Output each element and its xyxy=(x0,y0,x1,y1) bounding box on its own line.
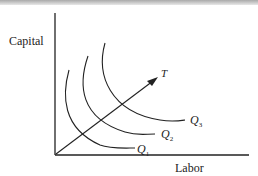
isoquant-diagram xyxy=(0,0,258,176)
x-axis-label: Labor xyxy=(175,162,204,174)
isoquant-q2 xyxy=(83,56,155,135)
y-axis-label: Capital xyxy=(9,35,44,47)
ray-label-t: T xyxy=(161,68,167,79)
isoquant-label-q1: Q1 xyxy=(137,143,149,155)
isoquant-q1 xyxy=(65,70,135,148)
isoquant-label-q3: Q3 xyxy=(190,114,202,126)
isoquant-label-q2: Q2 xyxy=(161,128,173,140)
